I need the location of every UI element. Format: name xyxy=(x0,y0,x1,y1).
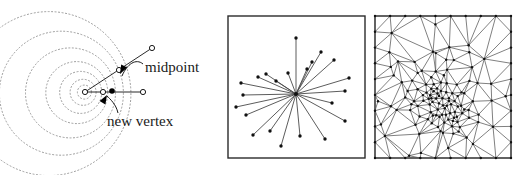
mesh-node xyxy=(409,109,411,111)
mesh-node xyxy=(374,31,376,33)
mesh-edge xyxy=(408,81,413,91)
mesh-node xyxy=(422,100,424,102)
mesh-edge xyxy=(493,127,511,143)
mesh-node xyxy=(463,108,465,110)
mesh-edge xyxy=(375,142,390,158)
mesh-edge xyxy=(484,59,511,63)
mesh-node xyxy=(411,79,413,81)
mesh-node xyxy=(390,105,392,107)
mesh-node xyxy=(432,114,434,116)
mesh-edge xyxy=(448,148,466,158)
mesh-node xyxy=(477,121,479,123)
mesh-node xyxy=(374,46,376,48)
mesh-node xyxy=(443,121,445,123)
mesh-edge xyxy=(457,85,462,93)
mesh-edge xyxy=(389,33,391,52)
mesh-node xyxy=(435,114,437,116)
mesh-node xyxy=(393,74,395,76)
mesh-node xyxy=(389,157,391,159)
mesh-node xyxy=(418,115,420,117)
mesh-node xyxy=(388,51,390,53)
mesh-node xyxy=(395,109,397,111)
mesh-node xyxy=(510,94,512,96)
mesh-node xyxy=(510,78,512,80)
mesh-edge xyxy=(493,111,511,127)
mesh-node xyxy=(463,92,465,94)
mesh-node xyxy=(471,66,473,68)
mesh-node xyxy=(442,132,444,134)
mesh-edge xyxy=(469,81,477,83)
mesh-edge xyxy=(449,47,469,52)
mesh-node xyxy=(374,15,376,17)
mesh-node xyxy=(447,118,449,120)
mesh-edge xyxy=(375,63,391,67)
mesh-node xyxy=(448,46,450,48)
mesh-edge xyxy=(435,131,440,158)
figure-root: midpoint new vertex xyxy=(0,0,527,175)
mesh-edge xyxy=(392,16,406,33)
mesh-edge xyxy=(390,16,392,33)
mesh-edge xyxy=(433,24,435,51)
mesh-node xyxy=(457,130,459,132)
mesh-node xyxy=(510,110,512,112)
mesh-node xyxy=(477,113,479,115)
mesh-edge xyxy=(375,136,385,142)
mesh-node xyxy=(374,141,376,143)
mesh-edge xyxy=(469,52,484,59)
mesh-edge xyxy=(469,45,485,59)
mesh-edge xyxy=(420,117,428,120)
mesh-node xyxy=(450,103,452,105)
mesh-node xyxy=(444,107,446,109)
mesh-edge xyxy=(398,61,412,80)
mesh-node xyxy=(449,112,451,114)
mesh-edge xyxy=(436,53,446,60)
mesh-node xyxy=(435,70,437,72)
mesh-node xyxy=(397,60,399,62)
mesh-node xyxy=(510,15,512,17)
mesh-node xyxy=(430,111,432,113)
mesh-node xyxy=(389,15,391,17)
mesh-node xyxy=(422,94,424,96)
mesh-node xyxy=(445,59,447,61)
mesh-edge xyxy=(472,67,478,83)
mesh-edge xyxy=(478,83,492,101)
mesh-node xyxy=(374,94,376,96)
mesh-edge xyxy=(484,48,511,59)
mesh-node xyxy=(439,130,441,132)
mesh-node xyxy=(421,70,423,72)
mesh-node xyxy=(480,157,482,159)
mesh-node xyxy=(425,83,427,85)
mesh-edge xyxy=(446,83,447,92)
mesh-node xyxy=(413,61,415,63)
mesh-node xyxy=(480,15,482,17)
mesh-node xyxy=(446,69,448,71)
mesh-node xyxy=(456,83,458,85)
mesh-node xyxy=(468,117,470,119)
mesh-node xyxy=(510,62,512,64)
mesh-edge xyxy=(446,60,447,70)
mesh-node xyxy=(425,91,427,93)
mesh-node xyxy=(417,72,419,74)
mesh-edge xyxy=(462,113,469,118)
mesh-node xyxy=(465,15,467,17)
mesh-node xyxy=(445,91,447,93)
mesh-edge xyxy=(441,83,447,91)
mesh-node xyxy=(510,46,512,48)
mesh-edge xyxy=(418,85,426,90)
mesh-edge xyxy=(450,104,451,113)
mesh-edge xyxy=(447,60,454,70)
mesh-edge xyxy=(478,83,492,84)
mesh-node xyxy=(417,105,419,107)
mesh-node xyxy=(374,62,376,64)
mesh-edge xyxy=(452,92,461,93)
mesh-edge xyxy=(375,32,392,33)
mesh-node xyxy=(460,105,462,107)
mesh-edge xyxy=(467,138,473,144)
mesh-node xyxy=(451,92,453,94)
mesh-node xyxy=(427,98,429,100)
mesh-node xyxy=(430,76,432,78)
mesh-edge xyxy=(385,136,405,158)
mesh-edge xyxy=(416,125,420,134)
mesh-node xyxy=(432,90,434,92)
mesh-node xyxy=(465,157,467,159)
